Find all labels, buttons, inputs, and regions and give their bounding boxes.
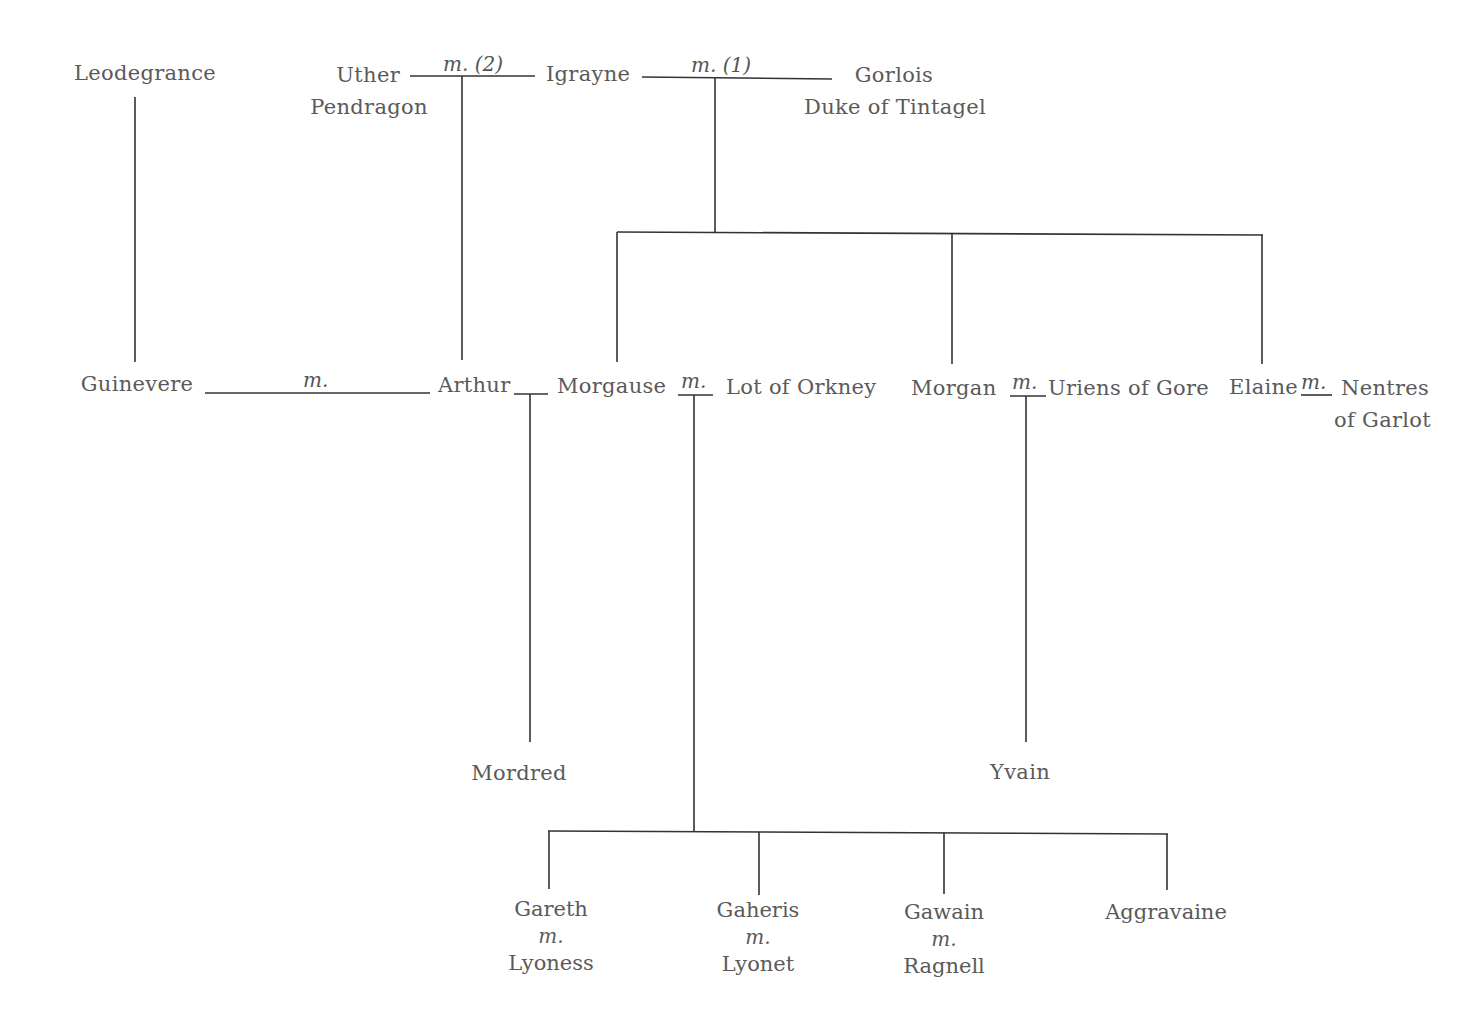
person-guinevere: Guinevere xyxy=(81,368,193,400)
person-gawain: Gawain xyxy=(903,899,985,926)
person-nentres-line2: of Garlot xyxy=(1334,404,1431,436)
person-lyoness: Lyoness xyxy=(508,950,594,977)
marriage-label-igrayne-gorlois: m. (1) xyxy=(691,53,751,77)
marriage-label-uther-igrayne: m. (2) xyxy=(443,52,503,76)
line-igrayne-gorlois-children-bar xyxy=(617,232,1263,235)
person-lot-of-orkney: Lot of Orkney xyxy=(726,371,877,403)
person-aggravaine-group: Aggravaine xyxy=(1105,899,1227,926)
person-uriens-of-gore: Uriens of Gore xyxy=(1048,372,1209,404)
person-elaine: Elaine xyxy=(1229,371,1298,403)
person-aggravaine: Aggravaine xyxy=(1105,899,1227,926)
person-yvain: Yvain xyxy=(990,756,1050,788)
line-marriage-igrayne-gorlois xyxy=(642,77,832,79)
person-gareth: Gareth xyxy=(508,896,594,923)
person-nentres-line1: Nentres xyxy=(1341,372,1429,404)
person-gaheris: Gaheris xyxy=(717,897,800,924)
marriage-label-gawain-ragnell: m. xyxy=(903,926,985,953)
person-gorlois-line1: Gorlois xyxy=(855,59,933,91)
marriage-label-morgan-uriens: m. xyxy=(1012,370,1037,394)
person-uther-line1: Uther xyxy=(336,59,400,91)
person-igrayne: Igrayne xyxy=(546,58,630,90)
marriage-label-elaine-nentres: m. xyxy=(1301,370,1326,394)
person-leodegrance: Leodegrance xyxy=(74,57,216,89)
person-arthur: Arthur xyxy=(438,369,511,401)
marriage-label-morgause-lot: m. xyxy=(681,369,706,393)
marriage-label-gaheris-lyonet: m. xyxy=(717,924,800,951)
person-morgan: Morgan xyxy=(911,372,996,404)
person-gorlois-line2: Duke of Tintagel xyxy=(804,91,986,123)
person-gaheris-group: Gaheris m. Lyonet xyxy=(717,897,800,978)
tree-connector-lines xyxy=(0,0,1457,1014)
person-mordred: Mordred xyxy=(471,757,567,789)
person-gareth-group: Gareth m. Lyoness xyxy=(508,896,594,977)
marriage-label-guinevere-arthur: m. xyxy=(303,368,328,392)
person-ragnell: Ragnell xyxy=(903,953,985,980)
person-lyonet: Lyonet xyxy=(717,951,800,978)
person-gawain-group: Gawain m. Ragnell xyxy=(903,899,985,980)
person-uther-line2: Pendragon xyxy=(310,91,427,123)
marriage-label-gareth-lyoness: m. xyxy=(508,923,594,950)
line-orkney-children-bar xyxy=(548,831,1168,834)
person-morgause: Morgause xyxy=(557,370,666,402)
